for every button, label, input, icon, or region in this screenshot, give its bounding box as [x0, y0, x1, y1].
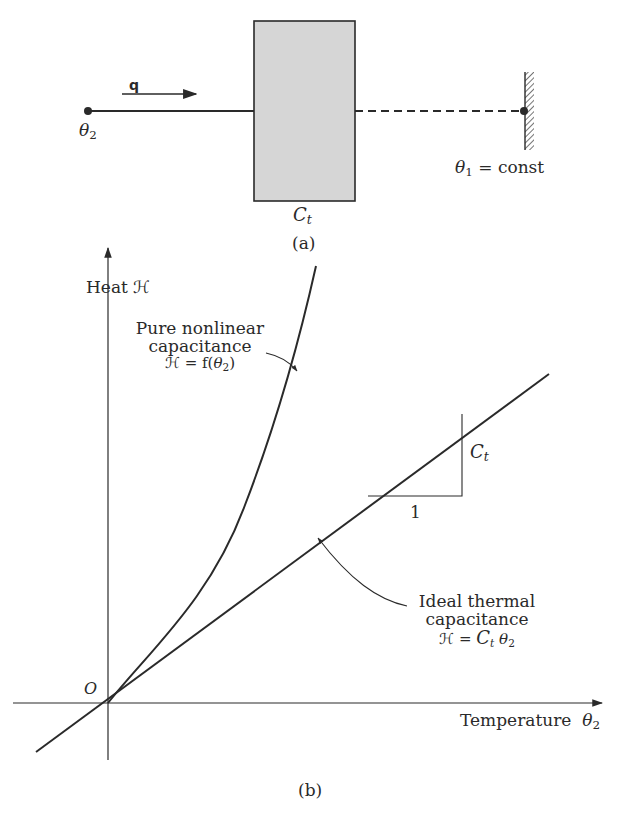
x-axis-label: Temperature θ2: [460, 712, 600, 731]
slope-rise-label: Ct: [470, 443, 489, 463]
const-text: = const: [473, 157, 544, 177]
c-symbol: C: [476, 627, 490, 648]
slope-run-label: 1: [410, 504, 421, 522]
theta-symbol: θ: [213, 354, 222, 372]
nonlinear-annotation: Pure nonlinear capacitance ℋ = f(θ2): [125, 320, 275, 372]
theta-symbol: θ: [582, 710, 592, 730]
left-node-dot: [84, 107, 92, 115]
eq-prefix: ℋ = f(: [165, 354, 214, 372]
flow-label: q: [129, 78, 139, 93]
theta-symbol: θ: [79, 120, 89, 140]
capacitor-label: Ct: [293, 206, 312, 226]
slope-triangle: [368, 414, 462, 496]
caption-b: (b): [298, 782, 322, 800]
subscript: 2: [592, 718, 600, 732]
subscript: 2: [508, 636, 515, 648]
linear-equation: ℋ = Ct θ2: [407, 629, 547, 649]
left-node-label: θ2: [79, 122, 97, 141]
theta-symbol: θ: [455, 157, 465, 177]
thermal-capacitance-box: [254, 21, 355, 201]
eq-suffix: ): [229, 354, 235, 372]
subscript: 2: [89, 128, 97, 142]
origin-label: O: [84, 681, 97, 698]
subscript: 1: [465, 165, 473, 179]
linear-leader-arrow-icon: [318, 538, 407, 606]
x-axis-text: Temperature: [460, 710, 571, 730]
linear-annotation: Ideal thermal capacitance ℋ = Ct θ2: [407, 593, 547, 648]
nonlinear-equation: ℋ = f(θ2): [125, 356, 275, 373]
c-symbol: C: [293, 204, 307, 225]
y-axis-label: Heat ℋ: [86, 279, 150, 297]
ideal-capacitance-line: [36, 374, 549, 752]
theta-symbol: θ: [499, 630, 508, 648]
c-symbol: C: [470, 441, 484, 462]
figure-canvas: q θ2 θ1 = const Ct (a) Heat ℋ Pure nonli…: [0, 0, 627, 819]
caption-a: (a): [292, 235, 315, 253]
eq-prefix: ℋ =: [439, 630, 476, 648]
reference-wall-hatch-icon: [525, 72, 534, 150]
panel-b-graph: [13, 248, 602, 760]
subscript: t: [484, 449, 489, 464]
right-node-label: θ1 = const: [455, 159, 544, 178]
subscript: t: [307, 212, 312, 227]
